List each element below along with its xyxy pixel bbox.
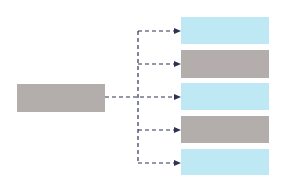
arrowhead-icon [174,127,181,133]
arrowhead-icon [174,61,181,67]
arrowhead-icon [174,28,181,34]
arrowhead-icon [174,94,181,100]
arrowhead-icon [174,160,181,166]
connectors [0,0,286,188]
